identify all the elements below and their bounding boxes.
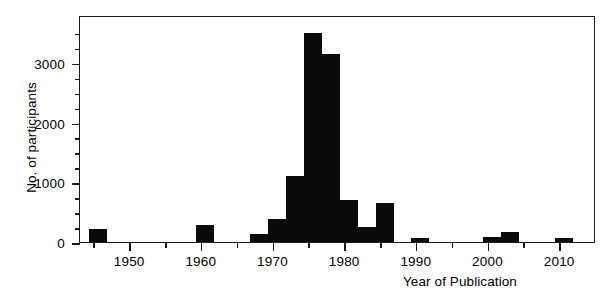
y-axis-major-tick	[72, 243, 80, 245]
x-axis-minor-tick	[237, 243, 239, 248]
x-axis-tick-label: 2010	[529, 255, 589, 269]
x-axis-minor-tick	[93, 243, 95, 248]
x-axis-tick-label: 2000	[458, 255, 518, 269]
x-axis-tick-label: 1980	[314, 255, 374, 269]
bar	[322, 54, 340, 242]
bar	[501, 232, 519, 242]
bar	[358, 227, 376, 242]
y-axis-tick-label: 2000	[34, 118, 65, 132]
x-axis-minor-tick	[523, 243, 525, 248]
plot-frame	[79, 16, 595, 243]
x-axis-major-tick	[488, 243, 490, 251]
y-axis-tick-label: 1000	[34, 177, 65, 191]
bar	[304, 33, 322, 242]
bar	[89, 229, 107, 242]
bar	[376, 203, 394, 242]
x-axis-minor-tick	[308, 243, 310, 248]
x-axis-major-tick	[273, 243, 275, 251]
vitamin-c-publications-histogram: No. of participants 0100020003000 195019…	[0, 0, 616, 301]
bar	[268, 219, 286, 242]
bar	[411, 238, 429, 242]
bar	[250, 234, 268, 242]
y-axis-tick-label: 3000	[34, 58, 65, 72]
y-axis-tick-label: 0	[57, 237, 65, 251]
bar	[196, 225, 214, 242]
x-axis-major-tick	[416, 243, 418, 251]
x-axis-minor-tick	[165, 243, 167, 248]
x-axis-minor-tick	[380, 243, 382, 248]
bar	[286, 176, 304, 242]
x-axis-tick-label: 1950	[99, 255, 159, 269]
x-axis-title: Year of Publication	[350, 274, 570, 289]
x-axis-major-tick	[201, 243, 203, 251]
x-axis-tick-label: 1960	[171, 255, 231, 269]
bar	[340, 200, 358, 242]
bar	[483, 237, 501, 242]
x-axis-tick-label: 1990	[386, 255, 446, 269]
x-axis-major-tick	[344, 243, 346, 251]
bar	[555, 238, 573, 242]
x-axis-tick-label: 1970	[243, 255, 303, 269]
x-axis-major-tick	[559, 243, 561, 251]
plot-area	[80, 17, 594, 242]
x-axis-major-tick	[129, 243, 131, 251]
x-axis-minor-tick	[452, 243, 454, 248]
